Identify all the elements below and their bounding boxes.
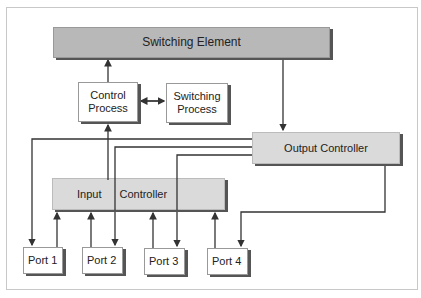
output-controller-label: Output Controller: [284, 142, 368, 155]
port-1-label: Port 1: [28, 254, 57, 267]
control-process-label-2: Process: [88, 102, 128, 115]
input-controller-label-2: Controller: [119, 188, 167, 201]
port-4-label: Port 4: [212, 255, 241, 268]
control-process-label-1: Control: [90, 89, 125, 102]
switching-element-label: Switching Element: [142, 36, 241, 49]
input-controller-label-1: Input: [77, 188, 101, 201]
switching-process-label-2: Process: [177, 103, 217, 116]
control-process-node: Control Process: [78, 82, 138, 122]
output-controller-node: Output Controller: [252, 132, 400, 164]
port-3-label: Port 3: [149, 255, 178, 268]
port-1-node: Port 1: [23, 247, 63, 274]
port-3-node: Port 3: [144, 248, 185, 275]
port-2-node: Port 2: [82, 247, 123, 274]
switching-element-node: Switching Element: [53, 27, 330, 58]
port-4-node: Port 4: [207, 248, 248, 275]
input-controller-node: Input Controller: [52, 178, 225, 210]
port-2-label: Port 2: [87, 254, 116, 267]
switching-process-label-1: Switching: [173, 90, 220, 103]
switching-process-node: Switching Process: [166, 83, 228, 123]
